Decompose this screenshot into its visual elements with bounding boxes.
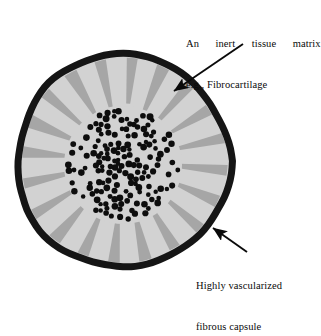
matrix-label: An inert tissue matrix e.g., Fibrocartil…	[186, 10, 318, 105]
cell	[105, 177, 111, 183]
cell	[169, 183, 175, 189]
cell	[153, 146, 158, 151]
cell	[101, 181, 106, 186]
cell	[142, 210, 148, 216]
cell	[146, 174, 151, 179]
cell	[153, 189, 157, 193]
cell	[127, 121, 133, 127]
cell	[99, 189, 104, 194]
cell	[116, 140, 122, 146]
cell	[109, 213, 114, 218]
cell	[71, 188, 77, 194]
cell	[146, 192, 151, 197]
cell	[96, 168, 102, 174]
cell	[105, 151, 110, 156]
cell	[162, 136, 167, 141]
cell	[124, 126, 130, 132]
cell	[124, 198, 130, 204]
cell	[102, 156, 107, 161]
cell	[166, 172, 172, 178]
cell	[141, 126, 148, 133]
cell	[103, 184, 110, 191]
cell	[127, 193, 133, 199]
cell	[112, 114, 117, 119]
cell	[111, 147, 118, 154]
cell	[66, 167, 73, 174]
cell	[103, 115, 110, 122]
cell	[65, 161, 72, 168]
cell	[155, 162, 161, 168]
cell	[135, 170, 140, 175]
capsule-label-line1: Highly vascularized	[196, 279, 320, 293]
cell	[96, 138, 101, 143]
cell	[136, 162, 142, 168]
cell	[125, 117, 130, 122]
cell	[96, 127, 102, 133]
cell	[98, 208, 103, 213]
cell	[131, 162, 137, 168]
cell	[140, 113, 146, 119]
cell	[117, 214, 123, 220]
cell	[166, 132, 173, 139]
cell	[104, 206, 109, 211]
cell	[81, 194, 86, 199]
cell	[135, 157, 141, 163]
cell	[99, 151, 104, 156]
cell	[132, 211, 138, 217]
cell	[88, 181, 93, 186]
cell	[140, 144, 147, 151]
cell	[168, 140, 174, 146]
cell	[151, 129, 156, 134]
cell	[99, 122, 104, 127]
cell	[137, 190, 142, 195]
cell	[108, 142, 113, 147]
cell	[122, 154, 127, 159]
cell	[147, 113, 154, 120]
cell	[108, 164, 114, 170]
cell	[72, 168, 77, 173]
capsule-annotation-arrow	[213, 228, 247, 252]
cell	[154, 200, 161, 207]
cell	[156, 196, 161, 201]
matrix-label-line2: e.g., Fibrocartilage	[186, 78, 318, 92]
cell	[69, 150, 75, 156]
cell	[93, 144, 98, 149]
cell	[87, 124, 93, 130]
cell	[70, 180, 75, 185]
cell	[118, 201, 124, 207]
cell	[141, 201, 148, 208]
cell	[112, 203, 119, 210]
cell	[117, 206, 122, 211]
cell	[103, 210, 109, 216]
cell	[103, 201, 108, 206]
cell	[78, 146, 83, 151]
cell	[93, 121, 98, 126]
cell	[112, 109, 117, 114]
cell	[147, 154, 153, 160]
cell	[90, 150, 97, 157]
matrix-label-line1: An inert tissue matrix	[186, 37, 318, 51]
capsule-label-line2: fibrous capsule	[196, 320, 320, 334]
capsule-label: Highly vascularized fibrous capsule	[196, 252, 320, 336]
cell	[164, 147, 170, 153]
cell	[131, 132, 137, 138]
cell	[104, 110, 110, 116]
cell	[126, 216, 131, 221]
cell	[175, 168, 180, 173]
cell	[100, 164, 104, 168]
cell	[84, 153, 90, 159]
cell	[146, 184, 151, 189]
cell	[134, 201, 140, 207]
cell	[142, 170, 147, 175]
cell	[93, 207, 98, 212]
cell	[165, 187, 170, 192]
cell	[170, 160, 176, 166]
cell	[98, 202, 102, 206]
cell	[78, 169, 85, 176]
cell	[104, 123, 110, 129]
cell	[135, 124, 141, 130]
cell	[150, 168, 156, 174]
cell	[143, 164, 149, 170]
cell	[83, 134, 90, 141]
cell	[144, 140, 148, 144]
